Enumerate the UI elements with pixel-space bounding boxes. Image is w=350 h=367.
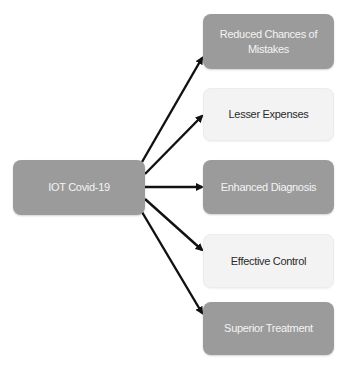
source-node-iot-covid-19: IOT Covid-19 <box>13 160 145 215</box>
target-node-lesser-expenses: Lesser Expenses <box>203 88 334 141</box>
arrow-to-effective-control <box>145 199 202 250</box>
iot-covid-benefits-diagram: IOT Covid-19 Reduced Chances of Mistakes… <box>0 0 350 367</box>
target-node-reduced-chances-of-mistakes: Reduced Chances of Mistakes <box>203 14 334 69</box>
target-node-enhanced-diagnosis: Enhanced Diagnosis <box>203 160 334 214</box>
target-node-label: Lesser Expenses <box>229 107 309 122</box>
target-node-effective-control: Effective Control <box>203 234 334 288</box>
target-node-superior-treatment: Superior Treatment <box>203 302 334 355</box>
target-node-label: Superior Treatment <box>224 321 313 336</box>
arrow-to-lesser-expenses <box>145 116 202 174</box>
target-node-label: Effective Control <box>231 254 306 269</box>
source-node-label: IOT Covid-19 <box>48 180 110 195</box>
arrow-to-superior-treatment <box>142 212 202 313</box>
target-node-label: Reduced Chances of Mistakes <box>217 27 320 57</box>
target-node-label: Enhanced Diagnosis <box>221 180 317 195</box>
